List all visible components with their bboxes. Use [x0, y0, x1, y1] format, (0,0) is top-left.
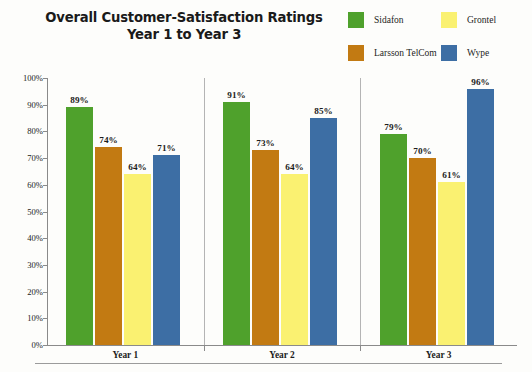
bar-larsson-telcom-year-3: 70% — [409, 158, 436, 345]
bar-grontel-year-3: 61% — [438, 182, 465, 345]
bar-sidafon-year-3: 79% — [380, 134, 407, 345]
y-axis-tick-label: 50% — [3, 207, 43, 217]
bar-value-label: 61% — [442, 170, 460, 180]
x-axis-category-label: Year 2 — [204, 350, 361, 360]
y-axis-tick-labels: 0%10%20%30%40%50%60%70%80%90%100% — [0, 0, 43, 372]
y-axis-tick-label: 20% — [3, 287, 43, 297]
bar-larsson-telcom-year-2: 73% — [252, 150, 279, 345]
bar-value-label: 70% — [413, 146, 431, 156]
y-axis-line — [47, 78, 48, 346]
bar-grontel-year-2: 64% — [281, 174, 308, 345]
y-axis-tick-label: 40% — [3, 233, 43, 243]
bar-value-label: 85% — [314, 106, 332, 116]
bar-value-label: 64% — [285, 162, 303, 172]
y-axis-tick-label: 90% — [3, 100, 43, 110]
y-axis-tick-label: 0% — [3, 340, 43, 350]
group-separator-line — [360, 78, 361, 346]
y-axis-tick-label: 70% — [3, 153, 43, 163]
bar-value-label: 96% — [471, 77, 489, 87]
bar-value-label: 71% — [157, 143, 175, 153]
bar-value-label: 79% — [384, 122, 402, 132]
bar-value-label: 73% — [256, 138, 274, 148]
bar-value-label: 64% — [128, 162, 146, 172]
x-axis-category-label: Year 3 — [360, 350, 517, 360]
y-axis-tick-label: 60% — [3, 180, 43, 190]
y-axis-tick-label: 30% — [3, 260, 43, 270]
y-axis-tick-label: 10% — [3, 313, 43, 323]
plot-area: 0%10%20%30%40%50%60%70%80%90%100% 89%74%… — [0, 0, 532, 372]
bar-sidafon-year-2: 91% — [223, 102, 250, 345]
x-axis-line — [47, 345, 517, 346]
bar-wype-year-2: 85% — [310, 118, 337, 345]
chart-container: Overall Customer-Satisfaction Ratings Ye… — [0, 0, 532, 372]
bar-value-label: 74% — [99, 135, 117, 145]
bar-value-label: 91% — [227, 90, 245, 100]
bar-wype-year-3: 96% — [467, 89, 494, 345]
y-axis-tick-label: 80% — [3, 126, 43, 136]
y-axis-tick-label: 100% — [3, 73, 43, 83]
x-axis-category-label: Year 1 — [47, 350, 204, 360]
bar-larsson-telcom-year-1: 74% — [95, 147, 122, 345]
bar-grontel-year-1: 64% — [124, 174, 151, 345]
group-separator-line — [204, 78, 205, 346]
bar-sidafon-year-1: 89% — [66, 107, 93, 345]
bar-wype-year-1: 71% — [153, 155, 180, 345]
bottom-rule-divider — [35, 363, 502, 364]
bar-value-label: 89% — [70, 95, 88, 105]
